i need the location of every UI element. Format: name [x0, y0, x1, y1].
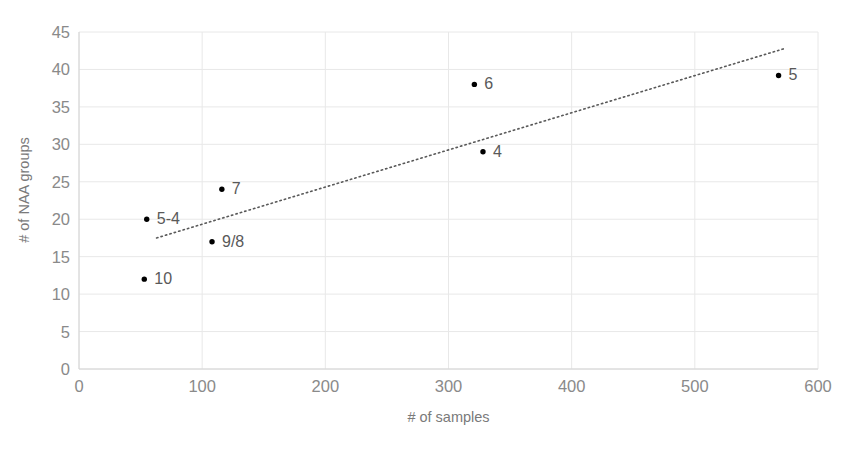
x-tick-label: 100 — [188, 378, 216, 395]
y-tick-label: 35 — [8, 99, 70, 116]
data-point-marker — [472, 82, 477, 87]
y-tick-label: 5 — [8, 323, 70, 340]
plot-area: 105-49/87645 — [79, 32, 818, 369]
data-point-label: 5-4 — [157, 211, 180, 227]
y-tick-label: 25 — [8, 174, 70, 191]
data-point-label: 7 — [232, 181, 241, 197]
y-tick-label: 45 — [8, 24, 70, 41]
data-point-marker — [480, 149, 485, 154]
data-point-marker — [144, 217, 149, 222]
data-point-label: 4 — [493, 144, 502, 160]
x-tick-label: 300 — [435, 378, 463, 395]
data-point-marker — [776, 73, 781, 78]
y-tick-label: 40 — [8, 61, 70, 78]
data-points — [79, 32, 818, 369]
y-axis-ticks: 051015202530354045 — [0, 32, 70, 369]
y-tick-label: 0 — [8, 361, 70, 378]
x-axis-ticks: 0100200300400500600 — [79, 378, 818, 402]
x-tick-label: 0 — [74, 378, 83, 395]
y-tick-label: 10 — [8, 286, 70, 303]
data-point-marker — [142, 276, 147, 281]
x-tick-label: 600 — [804, 378, 832, 395]
x-tick-label: 400 — [558, 378, 586, 395]
data-point-label: 9/8 — [222, 234, 244, 250]
x-tick-label: 500 — [681, 378, 709, 395]
data-point-marker — [209, 239, 214, 244]
y-tick-label: 20 — [8, 211, 70, 228]
data-point-label: 10 — [154, 271, 172, 287]
y-tick-label: 30 — [8, 136, 70, 153]
x-tick-label: 200 — [312, 378, 340, 395]
data-point-label: 5 — [789, 67, 798, 83]
y-tick-label: 15 — [8, 248, 70, 265]
data-point-marker — [219, 187, 224, 192]
data-point-label: 6 — [484, 76, 493, 92]
x-axis-title: # of samples — [79, 409, 818, 425]
scatter-chart: # of NAA groups 051015202530354045 105-4… — [0, 0, 854, 453]
